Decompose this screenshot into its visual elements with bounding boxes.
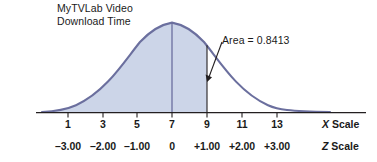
z-tick-label-pos3: +3.00: [264, 140, 290, 152]
chart-title: MyTVLab Video Download Time: [57, 2, 133, 27]
chart-title-line1: MyTVLab Video: [57, 2, 133, 14]
z-tick-label-pos2: +2.00: [229, 140, 255, 152]
x-tick-label-3: 3: [100, 118, 106, 130]
z-tick-label-neg1: –1.00: [124, 140, 150, 152]
z-tick-label-zero: 0: [169, 140, 175, 152]
normal-distribution-figure: MyTVLab Video Download Time Area = 0.841…: [0, 0, 377, 162]
x-tick-label-1: 1: [65, 118, 71, 130]
z-tick-label-neg3: –3.00: [55, 140, 81, 152]
x-tick-label-9: 9: [204, 118, 210, 130]
z-axis-word: Scale: [328, 140, 358, 152]
x-axis-word: Scale: [329, 118, 359, 130]
area-annotation-label: Area = 0.8413: [222, 34, 290, 46]
shaded-area-region: [42, 23, 207, 112]
z-tick-label-neg2: –2.00: [90, 140, 116, 152]
x-tick-label-13: 13: [271, 118, 283, 130]
x-tick-label-5: 5: [134, 118, 140, 130]
x-axis-symbol: X: [322, 118, 329, 130]
axis-ticks: [68, 113, 277, 118]
chart-title-line2: Download Time: [57, 15, 133, 28]
x-tick-label-11: 11: [236, 118, 247, 130]
z-axis-label: Z Scale: [322, 140, 359, 152]
z-tick-label-pos1: +1.00: [194, 140, 220, 152]
x-axis-label: X Scale: [322, 118, 359, 130]
x-tick-label-7: 7: [169, 118, 175, 130]
